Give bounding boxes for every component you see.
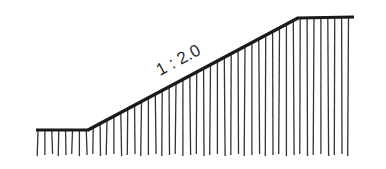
hatch-line [328, 19, 329, 157]
hatch-line [86, 131, 87, 155]
hatch-line [259, 40, 260, 154]
ground-profile-line [36, 17, 354, 130]
hatch-line [106, 121, 107, 155]
hatch-line [348, 18, 349, 156]
slope-diagram: 1 : 2.0 [0, 0, 386, 169]
hatch-line [293, 22, 294, 156]
hatch-line [155, 95, 156, 154]
hatch-line [279, 29, 280, 154]
hatch-line [141, 103, 142, 157]
hatch-line [224, 58, 225, 156]
hatch-line [72, 131, 73, 154]
hatch-line [210, 66, 211, 155]
hatch-line [244, 47, 245, 156]
hatch-line [190, 77, 191, 155]
hatch-line [52, 131, 53, 154]
hatch-line [175, 84, 176, 154]
ground-hatching [37, 18, 348, 156]
hatch-line [121, 114, 122, 157]
hatch-line [37, 131, 38, 156]
hatch-line [313, 19, 314, 155]
